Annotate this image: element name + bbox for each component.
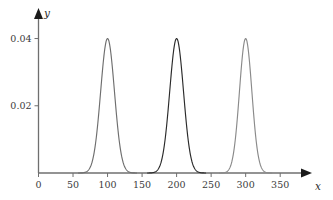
x-axis-tick-labels: 050100150200250300350 (35, 179, 289, 190)
x-tick-label: 50 (67, 179, 79, 190)
x-tick-label: 200 (168, 179, 186, 190)
x-tick-label: 350 (271, 179, 289, 190)
x-axis-title: x (315, 180, 321, 192)
x-tick-label: 100 (98, 179, 116, 190)
x-tick-label: 300 (237, 179, 255, 190)
y-axis-tick-labels: 0.020.04 (10, 33, 31, 111)
data-curve-peak-1 (79, 39, 137, 173)
plot-canvas: 050100150200250300350 0.020.04 x y (0, 0, 333, 200)
axes-group (34, 8, 312, 178)
y-tick-label: 0.04 (10, 33, 31, 44)
data-series-group (79, 39, 272, 173)
x-tick-label: 150 (133, 179, 151, 190)
x-tick-label: 0 (35, 179, 41, 190)
data-curve-peak-2 (148, 39, 206, 173)
x-tick-label: 250 (202, 179, 220, 190)
chart-figure: 050100150200250300350 0.020.04 x y (0, 0, 333, 200)
y-axis-title: y (43, 7, 51, 19)
data-curve-peak-3 (220, 39, 272, 173)
y-axis-arrow-icon (34, 8, 43, 19)
x-axis-arrow-icon (301, 169, 312, 178)
y-tick-label: 0.02 (10, 100, 31, 111)
